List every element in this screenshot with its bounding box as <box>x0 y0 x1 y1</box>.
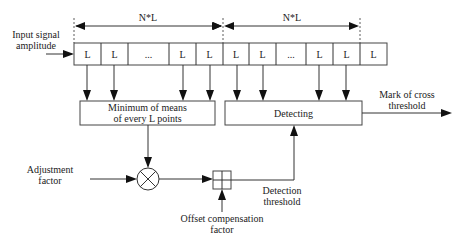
input-label-line2: amplitude <box>16 40 57 51</box>
cell: L <box>259 49 265 60</box>
offset-label-line1: Offset compensation <box>181 213 264 224</box>
threshold-label-line1: Detection <box>263 185 302 196</box>
min-box-line2: of every L points <box>113 113 181 124</box>
output-label-line1: Mark of cross <box>379 89 435 100</box>
multiplier-icon <box>137 168 159 190</box>
detect-input-arrows <box>233 65 350 101</box>
span-arrow-2: N*L <box>224 12 359 30</box>
cell: L <box>206 49 212 60</box>
output-arrowhead-icon <box>441 109 452 117</box>
cell: L <box>316 49 322 60</box>
adjustment-arrowhead-icon <box>126 175 137 183</box>
detect-box-label: Detecting <box>274 108 313 119</box>
adjustment-label-line1: Adjustment <box>27 164 74 175</box>
cell: ... <box>287 49 295 60</box>
buffer-cells: L L ... L L L L ... L L L <box>74 43 387 65</box>
span-label-1: N*L <box>139 12 157 23</box>
cell: L <box>343 49 349 60</box>
span-arrow-1: N*L <box>75 12 222 30</box>
multiplier-to-adder-arrowhead-icon <box>202 175 213 183</box>
offset-label-line2: factor <box>210 224 234 235</box>
adder-icon <box>213 171 231 189</box>
cell: ... <box>145 49 153 60</box>
cell: L <box>370 49 376 60</box>
threshold-line <box>231 134 294 180</box>
detecting-block: Detecting <box>225 101 362 125</box>
span-label-2: N*L <box>283 12 301 23</box>
min-to-multiplier-arrowhead-icon <box>144 157 152 168</box>
offset-arrowhead-icon <box>218 189 226 200</box>
cell: L <box>111 49 117 60</box>
block-diagram: N*L N*L Input signal amplitude L L ... L… <box>0 0 467 244</box>
input-arrowhead-icon <box>63 50 74 58</box>
min-box-line1: Minimum of means <box>108 102 187 113</box>
input-label-line1: Input signal <box>12 29 60 40</box>
threshold-label-line2: threshold <box>263 196 300 207</box>
cell: L <box>179 49 185 60</box>
adjustment-label-line2: factor <box>38 175 62 186</box>
output-label-line2: threshold <box>388 100 425 111</box>
minimum-means-block: Minimum of means of every L points <box>80 101 215 125</box>
cell: L <box>84 49 90 60</box>
cell: L <box>233 49 239 60</box>
min-input-arrows <box>83 65 214 101</box>
threshold-arrowhead-icon <box>290 125 298 136</box>
